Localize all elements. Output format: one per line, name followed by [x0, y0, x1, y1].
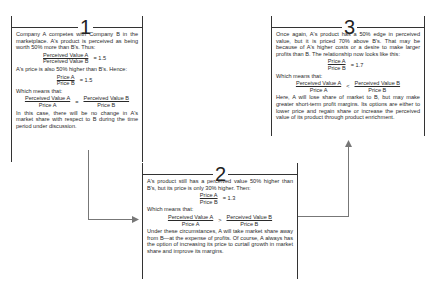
- panel-1: 1 Company A competes with Company B in t…: [11, 16, 143, 162]
- panel-2-which: Which means that:: [147, 206, 293, 213]
- panel-1-eq-price: Price APrice B = 1.5: [16, 74, 138, 87]
- panel-1-eq-perceived: Perceived Value APerceived Value B = 1.5: [16, 52, 138, 65]
- panel-1-mid: A's price is also 50% higher than B's. H…: [16, 66, 138, 73]
- panel-3-eq-ratio: Perceived Value APrice A < Perceived Val…: [276, 80, 420, 93]
- panel-1-intro: Company A competes with Company B in the…: [16, 31, 138, 51]
- panel-2-conclusion: Under these circumstances, A will take m…: [147, 228, 293, 254]
- panel-3: 3 Once again, A's product has a 50% edge…: [271, 16, 425, 136]
- panel-3-conclusion: Here, A will lose share of market to B, …: [276, 94, 420, 120]
- panel-3-which: Which means that:: [276, 73, 420, 80]
- panel-2-intro: A's product still has a perceived value …: [147, 178, 293, 191]
- panel-3-eq-price: Price APrice B = 1.7: [276, 58, 420, 71]
- panel-3-intro: Once again, A's product has a 50% edge i…: [276, 31, 420, 57]
- arrow-head-right-icon: [132, 216, 139, 223]
- panel-2-eq-price: Price APrice B = 1.3: [147, 192, 293, 205]
- panel-2-eq-ratio: Perceived Value APrice A > Perceived Val…: [147, 214, 293, 227]
- arrow-head-up-icon: [345, 140, 352, 147]
- panel-1-eq-ratio: Perceived Value APrice A = Perceived Val…: [16, 95, 138, 108]
- panel-1-which: Which means that:: [16, 88, 138, 95]
- panel-2: 2 A's product still has a perceived valu…: [142, 163, 298, 279]
- panel-1-conclusion: In this case, there will be no change in…: [16, 110, 138, 130]
- panel-1-header-rule: [12, 27, 142, 28]
